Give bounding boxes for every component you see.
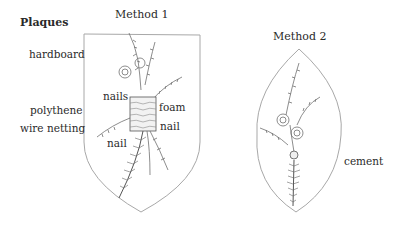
method1-flower-arrangement-icon [97, 33, 182, 198]
label-wire-netting: wire netting [20, 122, 85, 134]
label-hardboard: hardboard [29, 48, 85, 60]
method1-heading: Method 1 [115, 9, 168, 21]
method2-heading: Method 2 [273, 31, 326, 43]
section-title: Plaques [20, 17, 68, 29]
label-polythene: polythene [30, 104, 83, 116]
label-cement: cement [344, 155, 383, 167]
label-nail-left: nail [107, 137, 127, 149]
label-foam: foam [159, 101, 185, 113]
fern-icon [293, 160, 294, 206]
label-nails: nails [103, 90, 128, 102]
label-nail-right: nail [160, 120, 180, 132]
cement-blob-icon [290, 151, 298, 159]
